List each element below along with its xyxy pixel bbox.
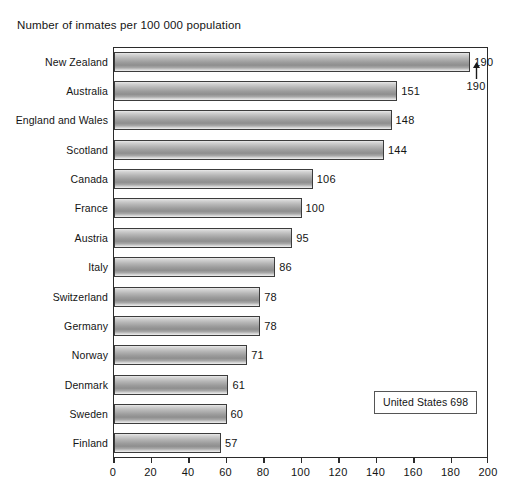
bar (114, 169, 313, 189)
bar-row: Germany78 (0, 311, 513, 340)
bar-value-label: 60 (231, 408, 244, 420)
chart-title: Number of inmates per 100 000 population (17, 19, 241, 31)
bar-value-label: 151 (401, 85, 420, 97)
x-axis-tick (301, 458, 303, 463)
x-axis-tick (151, 458, 153, 463)
x-axis-tick (188, 458, 190, 463)
x-axis-tick-label: 0 (110, 466, 116, 478)
bar-value-label: 95 (296, 232, 309, 244)
bar-row: France100 (0, 194, 513, 223)
bar (114, 316, 260, 336)
bar (114, 81, 397, 101)
x-axis-tick-label: 160 (404, 466, 423, 478)
bar-value-label: 144 (388, 144, 407, 156)
bar-row: Canada106 (0, 164, 513, 193)
category-label: Norway (72, 349, 108, 361)
x-axis-tick-label: 100 (291, 466, 310, 478)
category-label: Switzerland (53, 291, 108, 303)
x-axis-tick (487, 458, 489, 463)
x-axis: 020406080100120140160180200 (113, 458, 488, 492)
category-label: England and Wales (16, 114, 108, 126)
bar-value-label: 78 (264, 320, 277, 332)
arrow-up-icon (472, 62, 481, 79)
category-label: Germany (64, 320, 108, 332)
bar-value-label: 71 (251, 349, 264, 361)
bar-value-label: 61 (232, 379, 245, 391)
category-label: Canada (71, 173, 108, 185)
bar-value-label: 86 (279, 261, 292, 273)
bar (114, 404, 227, 424)
bar (114, 140, 384, 160)
bar (114, 287, 260, 307)
bar-row: Switzerland78 (0, 282, 513, 311)
bar-row: Norway71 (0, 341, 513, 370)
category-label: Scotland (66, 144, 108, 156)
bar (114, 257, 275, 277)
x-axis-tick-label: 120 (329, 466, 348, 478)
x-axis-tick (263, 458, 265, 463)
x-axis-tick (413, 458, 415, 463)
chart-figure: Number of inmates per 100 000 population… (0, 0, 513, 498)
x-axis-tick (226, 458, 228, 463)
bar-value-label: 78 (264, 291, 277, 303)
bar-value-label: 106 (317, 173, 336, 185)
bar (114, 345, 247, 365)
bar (114, 110, 392, 130)
x-axis-tick-label: 60 (219, 466, 232, 478)
bar-value-label: 148 (396, 114, 415, 126)
category-label: Austria (75, 232, 108, 244)
bar (114, 52, 470, 72)
bar-row: Finland57 (0, 429, 513, 458)
x-axis-tick-label: 20 (144, 466, 157, 478)
category-label: Australia (66, 85, 108, 97)
bar-row: Austria95 (0, 223, 513, 252)
united-states-callout: United States 698 (374, 391, 477, 414)
category-label: Denmark (65, 379, 108, 391)
category-label: Sweden (69, 408, 108, 420)
x-axis-tick-label: 40 (182, 466, 195, 478)
bar-row: Scotland144 (0, 135, 513, 164)
x-axis-tick (376, 458, 378, 463)
bar-row: Italy86 (0, 253, 513, 282)
x-axis-tick-label: 140 (366, 466, 385, 478)
x-axis-tick-label: 80 (257, 466, 270, 478)
bar (114, 433, 221, 453)
overflow-annotation: 190 (456, 62, 496, 92)
category-label: Finland (73, 437, 108, 449)
x-axis-tick-label: 200 (479, 466, 498, 478)
bar-value-label: 100 (306, 202, 325, 214)
category-label: France (75, 202, 108, 214)
bar (114, 375, 228, 395)
overflow-value-label: 190 (456, 80, 496, 92)
bar-row: New Zealand190 (0, 47, 513, 76)
category-label: New Zealand (45, 56, 108, 68)
bar (114, 228, 292, 248)
bar-row: England and Wales148 (0, 106, 513, 135)
bar-row: Australia151 (0, 76, 513, 105)
bar (114, 198, 302, 218)
bar-value-label: 57 (225, 437, 238, 449)
x-axis-tick (113, 458, 115, 463)
x-axis-tick (338, 458, 340, 463)
x-axis-tick (451, 458, 453, 463)
category-label: Italy (88, 261, 108, 273)
x-axis-tick-label: 180 (441, 466, 460, 478)
